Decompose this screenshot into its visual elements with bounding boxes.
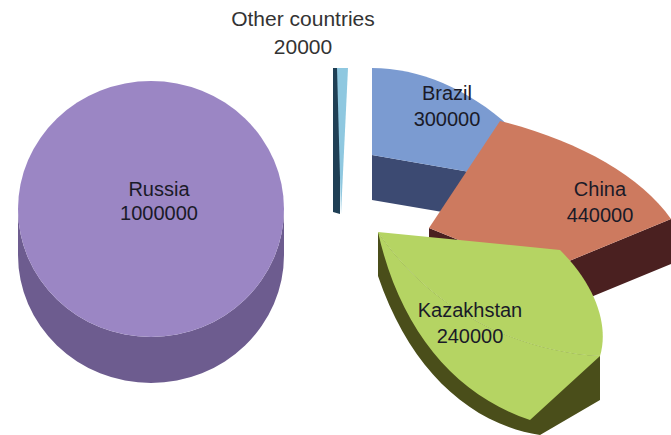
pie-label-kazakhstan-value: 240000 <box>437 325 504 347</box>
pie-label-other-countries-value: 20000 <box>274 35 332 58</box>
pie-label-china-value: 440000 <box>567 204 634 226</box>
pie-slice-russia-trim <box>284 60 324 390</box>
pie-label-russia-value: 1000000 <box>120 202 198 224</box>
pie-label-china-name: China <box>574 178 627 200</box>
pie-label-other-countries-name: Other countries <box>231 7 375 30</box>
pie-chart-figure: Russia 1000000 Other countries 20000 Bra… <box>0 0 671 435</box>
pie-label-kazakhstan-name: Kazakhstan <box>418 299 523 321</box>
pie-label-brazil-name: Brazil <box>422 82 472 104</box>
pie-label-russia-name: Russia <box>128 178 190 200</box>
pie-label-brazil-value: 300000 <box>414 108 481 130</box>
pie-chart-svg: Russia 1000000 Other countries 20000 Bra… <box>0 0 671 435</box>
